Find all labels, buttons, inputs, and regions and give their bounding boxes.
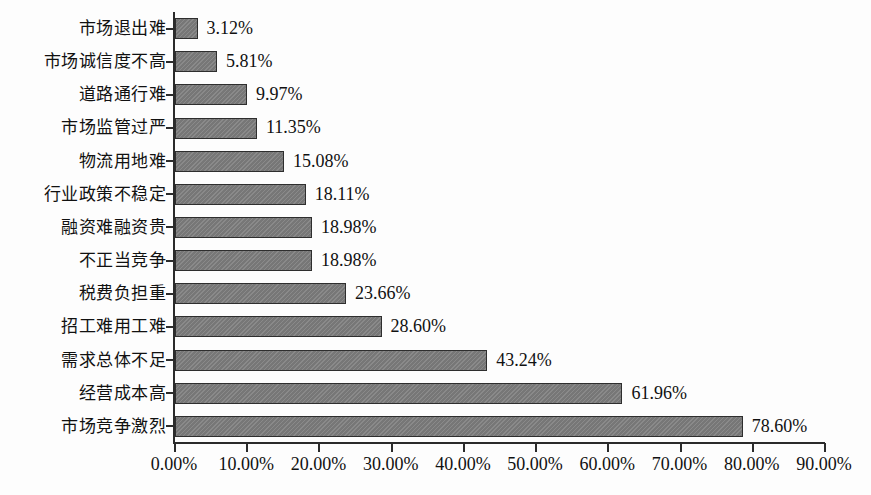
bar-row: 不正当竞争18.98%	[0, 244, 871, 277]
x-axis-tick-mark	[535, 443, 537, 452]
bar-value-label: 78.60%	[752, 410, 808, 443]
bar-row: 市场监管过严11.35%	[0, 111, 871, 144]
y-axis-tick	[166, 127, 174, 129]
y-axis-tick	[166, 293, 174, 295]
x-axis-tick-mark	[246, 443, 248, 452]
bar	[175, 118, 257, 139]
category-label: 市场监管过严	[0, 111, 166, 144]
bar-row: 税费负担重23.66%	[0, 277, 871, 310]
y-axis-tick	[166, 28, 174, 30]
category-label: 市场诚信度不高	[0, 45, 166, 78]
x-axis-tick-mark	[824, 443, 826, 452]
category-label: 行业政策不稳定	[0, 178, 166, 211]
bar	[175, 151, 284, 172]
bar	[175, 184, 306, 205]
category-label: 招工难用工难	[0, 310, 166, 343]
bar	[175, 383, 622, 404]
bar-value-label: 11.35%	[266, 111, 321, 144]
category-label: 经营成本高	[0, 377, 166, 410]
y-axis-tick	[166, 94, 174, 96]
y-axis-tick	[166, 392, 174, 394]
bar-row: 市场竞争激烈78.60%	[0, 410, 871, 443]
bar	[175, 283, 346, 304]
bar-value-label: 18.98%	[321, 244, 377, 277]
category-label: 不正当竞争	[0, 244, 166, 277]
bar-value-label: 15.08%	[293, 145, 349, 178]
bar	[175, 217, 312, 238]
y-axis-tick	[166, 226, 174, 228]
bar	[175, 18, 198, 39]
y-axis-tick	[166, 61, 174, 63]
bar-rows: 市场退出难3.12%市场诚信度不高5.81%道路通行难9.97%市场监管过严11…	[0, 12, 871, 443]
category-label: 市场退出难	[0, 12, 166, 45]
category-label: 需求总体不足	[0, 344, 166, 377]
bar-value-label: 28.60%	[391, 310, 447, 343]
category-label: 道路通行难	[0, 78, 166, 111]
bar-value-label: 18.11%	[315, 178, 370, 211]
bar-value-label: 43.24%	[496, 344, 552, 377]
bar-row: 道路通行难9.97%	[0, 78, 871, 111]
category-label: 税费负担重	[0, 277, 166, 310]
bar	[175, 350, 487, 371]
x-axis-tick-mark	[391, 443, 393, 452]
bar-row: 市场退出难3.12%	[0, 12, 871, 45]
category-label: 物流用地难	[0, 145, 166, 178]
bar	[175, 316, 382, 337]
bar	[175, 250, 312, 271]
bar-row: 市场诚信度不高5.81%	[0, 45, 871, 78]
bar-chart: 市场退出难3.12%市场诚信度不高5.81%道路通行难9.97%市场监管过严11…	[0, 0, 871, 495]
x-axis-tick-mark	[174, 443, 176, 452]
y-axis-tick	[166, 193, 174, 195]
bar-row: 行业政策不稳定18.11%	[0, 178, 871, 211]
x-axis-tick-mark	[680, 443, 682, 452]
bar-value-label: 61.96%	[631, 377, 687, 410]
bar	[175, 416, 743, 437]
bar-row: 物流用地难15.08%	[0, 145, 871, 178]
bar-row: 经营成本高61.96%	[0, 377, 871, 410]
x-axis-tick-mark	[607, 443, 609, 452]
bar-row: 招工难用工难28.60%	[0, 310, 871, 343]
x-axis-tick-mark	[318, 443, 320, 452]
y-axis-tick	[166, 359, 174, 361]
bar-value-label: 9.97%	[256, 78, 303, 111]
x-axis-tick-mark	[463, 443, 465, 452]
category-label: 融资难融资贵	[0, 211, 166, 244]
y-axis-tick	[166, 425, 174, 427]
bar	[175, 84, 247, 105]
y-axis-tick	[166, 326, 174, 328]
category-label: 市场竞争激烈	[0, 410, 166, 443]
bar-value-label: 3.12%	[207, 12, 254, 45]
bar-value-label: 18.98%	[321, 211, 377, 244]
bar	[175, 51, 217, 72]
y-axis-tick	[166, 260, 174, 262]
bar-value-label: 5.81%	[226, 45, 273, 78]
bar-row: 融资难融资贵18.98%	[0, 211, 871, 244]
bar-row: 需求总体不足43.24%	[0, 344, 871, 377]
bar-value-label: 23.66%	[355, 277, 411, 310]
x-axis-ticks: 0.00%10.00%20.00%30.00%40.00%50.00%60.00…	[0, 443, 871, 495]
y-axis-tick	[166, 160, 174, 162]
x-axis-tick-mark	[752, 443, 754, 452]
x-axis-tick-label: 90.00%	[769, 454, 871, 475]
